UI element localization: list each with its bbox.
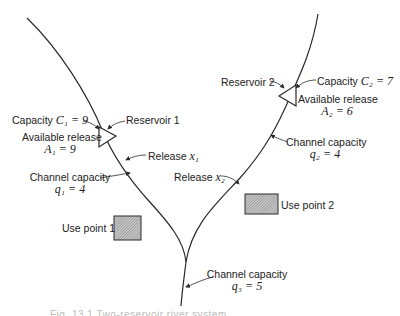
channel-q2-label: Channel capacity q₂ = 4 <box>286 136 364 160</box>
channel-q3-label: Channel capacity q₃ = 5 <box>205 268 289 292</box>
river-network-diagram: Capacity C₁ = 9 Reservoir 1 Available re… <box>0 0 400 316</box>
river-main-stem <box>181 262 186 306</box>
available-release-1-label: Available release A₁ = 9 <box>22 131 98 155</box>
use-point-1-symbol <box>114 216 141 240</box>
figure-caption: Fig. 13.1 Two-reservoir river system <box>50 308 350 316</box>
capacity-c1-label: Capacity C₁ = 9 <box>12 114 88 126</box>
leader-reservoir-1 <box>108 121 125 129</box>
leader-capacity-c2 <box>296 80 316 88</box>
use-point-2-symbol <box>245 194 278 214</box>
capacity-c2-label: Capacity C₂ = 7 <box>317 75 393 87</box>
release-x1-label: Release x₁ <box>148 150 199 162</box>
reservoir-2-label: Reservoir 2 <box>221 76 275 88</box>
available-release-2-label: Available release A₂ = 6 <box>298 93 376 117</box>
reservoir-1-label: Reservoir 1 <box>126 114 180 126</box>
channel-q1-label: Channel capacity q₁ = 4 <box>28 171 112 195</box>
use-point-2-label: Use point 2 <box>281 199 334 211</box>
release-x2-label: Release x₂ <box>174 171 225 183</box>
leader-release-x1 <box>126 155 146 160</box>
use-point-1-label: Use point 1 <box>62 222 115 234</box>
